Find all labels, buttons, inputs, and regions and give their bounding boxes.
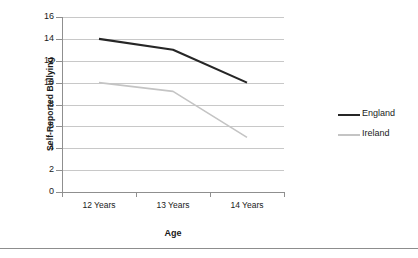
legend-item-ireland[interactable]: Ireland [338, 128, 416, 148]
series-line-england [99, 39, 247, 83]
legend-item-england[interactable]: England [338, 108, 416, 128]
legend-label: Ireland [362, 128, 390, 138]
chart-legend: EnglandIreland [338, 108, 416, 148]
legend-line-swatch [338, 134, 360, 136]
figure-bottom-rule [0, 248, 418, 249]
series-line-ireland [99, 83, 247, 138]
legend-line-swatch [338, 114, 360, 116]
line-chart: Self-Reported Bullying 0246810121416 12 … [0, 0, 418, 248]
legend-label: England [362, 108, 395, 118]
chart-figure: Self-Reported Bullying 0246810121416 12 … [0, 0, 418, 258]
